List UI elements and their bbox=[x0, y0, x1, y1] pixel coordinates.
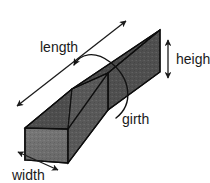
box-far-end-face bbox=[108, 30, 160, 110]
diagram-canvas: length height girth width bbox=[0, 0, 210, 183]
height-annotation: height bbox=[168, 40, 210, 78]
height-label: height bbox=[176, 51, 210, 67]
length-label: length bbox=[40, 39, 78, 55]
width-label: width bbox=[11, 167, 45, 183]
girth-label: girth bbox=[122, 111, 149, 127]
package-dimensions-diagram: length height girth width bbox=[0, 0, 210, 183]
